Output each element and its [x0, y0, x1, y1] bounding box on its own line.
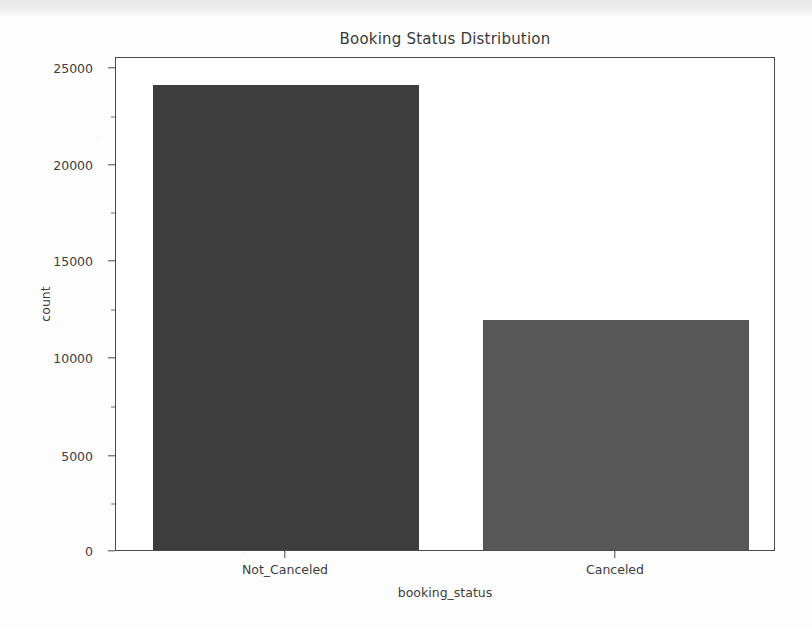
y-tick-mark-20000	[108, 164, 115, 165]
bar-not-canceled[interactable]	[153, 85, 419, 551]
x-tick-mark-canceled	[614, 551, 615, 558]
y-tick-label-20000: 20000	[53, 158, 93, 173]
y-tick-mark-25000	[108, 67, 115, 68]
x-tick-mark-not-canceled	[284, 551, 285, 558]
x-tick-label-canceled: Canceled	[586, 562, 644, 577]
bars-layer	[116, 58, 774, 550]
y-tick-label-25000: 25000	[53, 61, 93, 76]
y-tick-label-5000: 5000	[61, 449, 93, 464]
y-axis-title: count	[38, 286, 53, 321]
y-tick-mark-5000	[108, 455, 115, 456]
y-axis: 25000 20000 15000 10000 5000 0	[0, 0, 110, 630]
matplotlib-figure: Booking Status Distribution 25000 20000 …	[0, 0, 812, 630]
y-tick-label-0: 0	[85, 544, 93, 559]
screenshot-page: Booking Status Distribution 25000 20000 …	[0, 0, 812, 630]
bar-canceled[interactable]	[483, 320, 749, 550]
y-tick-mark-10000	[108, 357, 115, 358]
chart-title: Booking Status Distribution	[115, 30, 775, 48]
x-tick-label-not-canceled: Not_Canceled	[242, 562, 328, 577]
y-tick-mark-0	[108, 550, 115, 551]
x-axis-title: booking_status	[115, 585, 775, 600]
y-tick-label-15000: 15000	[53, 254, 93, 269]
plot-area	[115, 57, 775, 551]
y-tick-label-10000: 10000	[53, 351, 93, 366]
y-tick-mark-15000	[108, 260, 115, 261]
